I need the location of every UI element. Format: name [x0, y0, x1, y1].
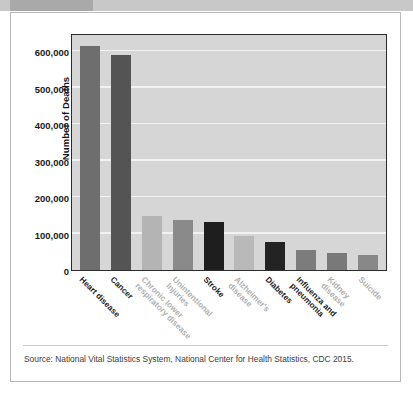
x-axis-category-labels: Heart diseaseCancerChronic lower respira…	[71, 271, 387, 361]
y-axis-tick-label: 300,000	[11, 156, 69, 167]
y-axis-tick-label: 0	[11, 266, 69, 277]
x-axis-label: Stroke	[201, 275, 226, 300]
header-strip-accent	[10, 0, 93, 11]
x-axis-label: Cancer	[108, 275, 134, 301]
bar	[265, 242, 285, 270]
y-axis-tick-label: 100,000	[11, 229, 69, 240]
figure-card: Number of Deaths 0100,000200,000300,0004…	[10, 12, 401, 382]
y-axis-tick-label: 600,000	[11, 47, 69, 58]
y-axis-tick-label: 400,000	[11, 120, 69, 131]
bar	[80, 46, 100, 270]
bar	[111, 55, 131, 270]
source-divider	[23, 345, 388, 346]
x-axis-label: Suicide	[356, 275, 383, 302]
bar	[296, 250, 316, 270]
bar	[173, 220, 193, 270]
bar	[358, 255, 378, 270]
y-axis-tick-label: 200,000	[11, 193, 69, 204]
y-axis-tick-label: 500,000	[11, 83, 69, 94]
bar	[204, 222, 224, 270]
bar	[327, 253, 347, 271]
top-header-strip	[0, 0, 413, 11]
bar-series	[72, 35, 386, 270]
bar	[234, 236, 254, 270]
bar	[142, 216, 162, 270]
chart-plot-area	[71, 34, 387, 271]
y-axis-tick-labels: 0100,000200,000300,000400,000500,000600,…	[11, 13, 69, 383]
source-note: Source: National Vital Statistics System…	[24, 354, 394, 364]
